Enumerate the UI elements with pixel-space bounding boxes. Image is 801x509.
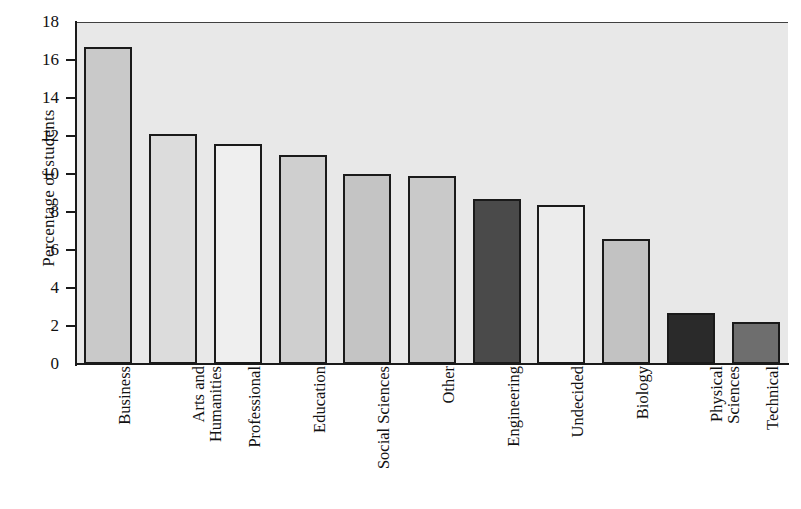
x-axis-label-line: Professional xyxy=(247,366,264,506)
x-axis-label: Arts andHumanities xyxy=(191,366,209,506)
y-tick-label: 12 xyxy=(19,127,59,144)
x-axis-label: Technical xyxy=(765,366,783,506)
bar xyxy=(537,205,585,364)
y-tick-label: 2 xyxy=(19,317,59,334)
x-axis-label: Professional xyxy=(247,366,265,506)
bar-chart: Percentage of students 024681012141618 B… xyxy=(0,0,801,509)
bar xyxy=(279,155,327,364)
x-axis-label-line: Humanities xyxy=(208,366,225,506)
x-axis-label-line: Technical xyxy=(765,366,782,506)
x-axis-label-line: Engineering xyxy=(506,366,523,506)
bar xyxy=(343,174,391,364)
bar xyxy=(84,47,132,364)
bar xyxy=(602,239,650,364)
y-tick-label: 4 xyxy=(19,279,59,296)
x-axis-label-line: Sciences xyxy=(726,366,743,506)
y-tick-label: 8 xyxy=(19,203,59,220)
bar xyxy=(214,144,262,364)
x-axis-label: Biology xyxy=(635,366,653,506)
x-axis-label-line: Education xyxy=(312,366,329,506)
x-axis-label: Business xyxy=(117,366,135,506)
x-axis-label: PhysicalSciences xyxy=(709,366,727,506)
bars-group xyxy=(76,22,788,364)
x-axis-label: Social Sciences xyxy=(376,366,394,506)
x-axis-label-line: Other xyxy=(441,366,458,506)
x-axis-label: Undecided xyxy=(570,366,588,506)
bar xyxy=(408,176,456,364)
bar xyxy=(732,322,780,364)
x-axis-label-line: Biology xyxy=(635,366,652,506)
x-axis-label-line: Undecided xyxy=(570,366,587,506)
bar xyxy=(473,199,521,364)
y-axis-title: Percentage of students xyxy=(39,23,59,353)
x-axis-label: Education xyxy=(312,366,330,506)
y-tick-label: 18 xyxy=(19,13,59,30)
y-tick-label: 16 xyxy=(19,51,59,68)
x-axis-label: Engineering xyxy=(506,366,524,506)
x-axis-labels: BusinessArts andHumanitiesProfessionalEd… xyxy=(76,366,788,509)
y-tick-label: 6 xyxy=(19,241,59,258)
y-tick-label: 10 xyxy=(19,165,59,182)
y-tick-label: 0 xyxy=(19,355,59,372)
x-axis-label-line: Social Sciences xyxy=(376,366,393,506)
y-tick-label: 14 xyxy=(19,89,59,106)
bar xyxy=(667,313,715,364)
x-axis-label-line: Business xyxy=(117,366,134,506)
bar xyxy=(149,134,197,364)
x-axis-label: Other xyxy=(441,366,459,506)
